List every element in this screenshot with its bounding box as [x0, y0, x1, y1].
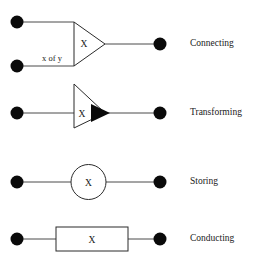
row-label-conducting: Conducting	[190, 234, 234, 244]
row-label-transforming: Transforming	[190, 108, 242, 118]
row-connecting: X x of y	[11, 16, 167, 73]
shape-label: X	[81, 39, 88, 49]
edge-note-label: x of y	[42, 53, 63, 63]
triangle-shape	[74, 22, 105, 66]
terminal-input	[11, 107, 24, 120]
terminal-input-top	[11, 16, 24, 29]
row-label-storing: Storing	[190, 177, 218, 187]
shape-label: X	[85, 178, 92, 188]
row-storing: X	[11, 165, 167, 200]
terminal-output	[154, 233, 167, 246]
shape-label: X	[89, 235, 96, 245]
diagram-canvas: X x of y X X	[0, 0, 255, 260]
terminal-input-bottom	[11, 60, 24, 73]
terminal-output	[154, 176, 167, 189]
terminal-input	[11, 176, 24, 189]
row-conducting: X	[11, 227, 167, 251]
terminal-output	[154, 107, 167, 120]
terminal-output	[154, 38, 167, 51]
terminal-input	[11, 233, 24, 246]
shape-label: X	[79, 109, 86, 119]
row-label-connecting: Connecting	[190, 39, 234, 49]
triangle-shape	[74, 84, 105, 128]
filled-arrowhead-icon	[91, 104, 110, 122]
row-transforming: X	[11, 84, 167, 128]
